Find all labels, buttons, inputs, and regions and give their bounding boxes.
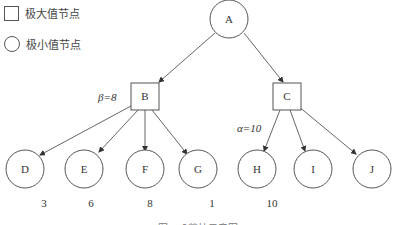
edge-A-B [159,33,215,82]
edge-B-E [99,110,138,152]
figure-caption: 图 α-β剪枝示意图 [0,220,396,225]
edge-B-D [40,106,131,155]
value-D: 3 [41,197,47,209]
game-tree-diagram: A B C D E F G H I J 3 6 8 1 10 β=8 α=10 [0,0,396,225]
node-J-label: J [370,163,375,175]
node-F-label: F [142,163,148,175]
edge-B-G [152,110,187,154]
edge-C-I [290,110,305,151]
beta-annotation: β=8 [97,91,117,103]
node-B-label: B [141,90,148,102]
edge-A-C [244,33,283,82]
node-I-label: I [311,163,315,175]
node-A-label: A [225,13,233,25]
tree-edges [40,33,356,155]
alpha-annotation: α=10 [237,122,262,134]
value-E: 6 [88,197,94,209]
node-C-label: C [283,90,290,102]
node-H-label: H [253,163,261,175]
edge-C-J [298,106,356,154]
edge-C-H [264,110,280,151]
value-G: 1 [209,197,215,209]
node-E-label: E [81,163,88,175]
node-G-label: G [194,163,202,175]
value-H: 10 [267,197,279,209]
value-F: 8 [147,197,153,209]
node-D-label: D [21,163,29,175]
